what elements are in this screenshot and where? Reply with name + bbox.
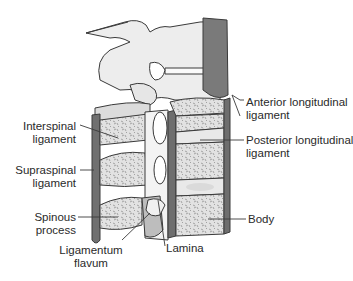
vertebral-body-1	[170, 98, 225, 116]
spinous-process-middle	[100, 152, 148, 186]
label-line: Supraspinal	[2, 164, 76, 177]
label-line: Body	[248, 213, 274, 226]
label-lamina: Lamina	[166, 242, 204, 255]
label-ligamentum-flavum: Ligamentum flavum	[56, 244, 126, 270]
label-line: Interspinal	[10, 120, 76, 133]
label-line: Anterior longitudinal	[246, 96, 348, 109]
spinous-process-upper	[100, 114, 148, 145]
label-line: ligament	[10, 133, 76, 146]
vertebral-body-3	[176, 142, 224, 180]
label-line: Posterior longitudinal	[246, 134, 353, 147]
label-line: Ligamentum	[56, 244, 126, 257]
label-line: process	[14, 224, 76, 237]
label-line: Spinous	[14, 211, 76, 224]
vertebral-body-4	[176, 194, 224, 236]
supraspinal-ligament-band	[92, 114, 100, 243]
label-supraspinal-ligament: Supraspinal ligament	[2, 164, 76, 190]
label-anterior-longitudinal-ligament: Anterior longitudinal ligament	[246, 96, 348, 122]
label-interspinal-ligament: Interspinal ligament	[10, 120, 76, 146]
label-line: Lamina	[166, 242, 204, 255]
label-line: ligament	[246, 109, 348, 122]
label-body: Body	[248, 213, 274, 226]
label-line: ligament	[246, 147, 353, 160]
anterior-ligament-band	[224, 98, 230, 234]
anterior-ligament-upper	[203, 18, 228, 98]
label-posterior-longitudinal-ligament: Posterior longitudinal ligament	[246, 134, 353, 160]
label-line: flavum	[56, 257, 126, 270]
spinous-process-lower	[100, 197, 142, 229]
posterior-ligament-band	[168, 110, 176, 238]
label-spinous-process: Spinous process	[14, 211, 76, 237]
upper-vertebra	[86, 21, 220, 105]
label-line: ligament	[2, 177, 76, 190]
